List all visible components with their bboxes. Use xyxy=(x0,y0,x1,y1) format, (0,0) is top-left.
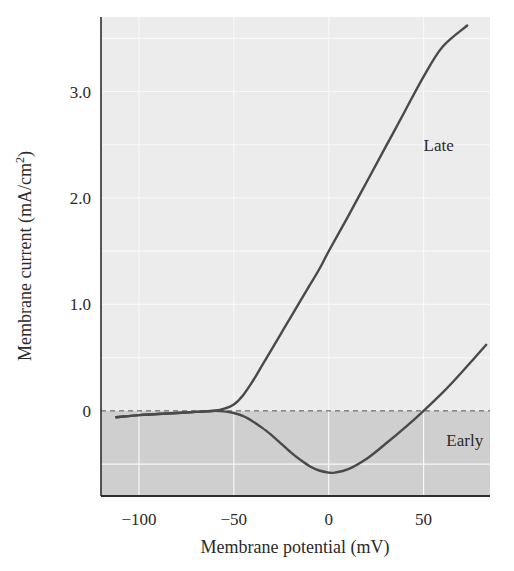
membrane-current-chart: Late Early −100−50050 01.02.03.0 Membran… xyxy=(0,0,514,571)
positive-region-background xyxy=(101,17,490,411)
x-tick-label: 0 xyxy=(324,510,333,529)
x-tick-labels: −100−50050 xyxy=(121,510,432,529)
y-tick-label: 1.0 xyxy=(70,295,91,314)
y-axis-label-close: ) xyxy=(15,151,36,157)
y-axis-label-main: Membrane current (mA/cm xyxy=(15,163,36,361)
series-label-early: Early xyxy=(446,431,483,450)
y-tick-label: 2.0 xyxy=(70,189,91,208)
x-tick-label: 50 xyxy=(415,510,432,529)
y-tick-label: 0 xyxy=(83,402,92,421)
x-tick-label: −50 xyxy=(221,510,248,529)
series-label-late: Late xyxy=(424,136,454,155)
x-tick-label: −100 xyxy=(121,510,156,529)
y-tick-label: 3.0 xyxy=(70,83,91,102)
y-axis-label: Membrane current (mA/cm2) xyxy=(13,151,36,361)
negative-region-background xyxy=(101,411,490,496)
y-tick-labels: 01.02.03.0 xyxy=(70,83,91,421)
plot-area: Late Early xyxy=(101,17,490,496)
x-axis-label: Membrane potential (mV) xyxy=(201,537,390,558)
